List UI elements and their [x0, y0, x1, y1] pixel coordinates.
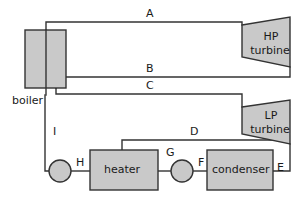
stream-label-A: A	[146, 8, 154, 19]
stream-path-A	[46, 22, 242, 30]
component-pump-g[interactable]	[171, 160, 193, 182]
stream-label-D: D	[190, 126, 198, 137]
component-lp-turbine[interactable]	[242, 100, 290, 144]
stream-label-C: C	[146, 80, 154, 91]
label-condenser: condenser	[212, 164, 270, 175]
stream-label-G: G	[166, 147, 175, 158]
diagram-canvas: boiler HP turbine LP turbine heater cond…	[0, 0, 307, 205]
label-lp-turbine-line2: turbine	[246, 124, 294, 135]
stream-label-H: H	[76, 157, 84, 168]
stream-path-D	[122, 140, 280, 150]
stream-label-B: B	[146, 63, 154, 74]
label-hp-turbine-line2: turbine	[246, 45, 294, 56]
label-heater: heater	[104, 164, 140, 175]
label-hp-turbine-line1: HP	[252, 31, 290, 42]
stream-label-I: I	[53, 126, 56, 137]
label-lp-turbine-line1: LP	[252, 110, 290, 121]
stream-path-B	[56, 67, 290, 88]
label-boiler: boiler	[12, 95, 43, 106]
stream-path-I	[45, 95, 49, 171]
component-pump-h[interactable]	[49, 160, 71, 182]
stream-label-F: F	[198, 157, 204, 168]
stream-label-E: E	[277, 162, 284, 173]
